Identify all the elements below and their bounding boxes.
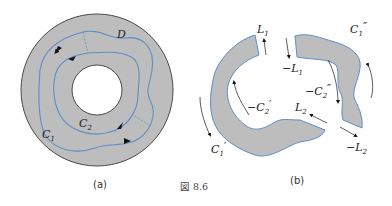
panel-a-annulus (21, 14, 173, 166)
region-label-d: D (116, 28, 126, 41)
label-neg-l1: −L1 (282, 62, 303, 77)
label-l1: L1 (256, 23, 269, 38)
figure-8-6: D C1 C2 (a) 図 8.6 L1 −L1 C1″ −C2″ −C2′ L… (0, 0, 392, 206)
panel-b-label: (b) (290, 175, 304, 186)
figure-caption: 図 8.6 (180, 181, 208, 192)
label-neg-c2-double-prime: −C2″ (305, 82, 332, 100)
label-c1-double-prime: C1″ (350, 20, 368, 38)
label-l2: L2 (294, 101, 307, 116)
panel-b-pieces (200, 35, 373, 156)
label-neg-c2-prime: −C2′ (247, 98, 272, 116)
label-neg-l2: −L2 (346, 141, 368, 156)
panel-a-label: (a) (93, 179, 107, 190)
label-c1-prime: C1′ (211, 140, 227, 158)
